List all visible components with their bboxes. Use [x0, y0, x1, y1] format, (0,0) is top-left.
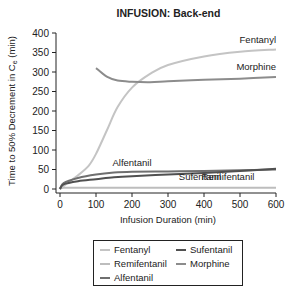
x-tick-label: 300 [160, 199, 177, 210]
y-tick-label: 200 [32, 106, 49, 117]
series-annotation: Remifentanil [202, 171, 255, 182]
y-tick-label: 50 [38, 164, 50, 175]
legend-label: Remifentanil [114, 258, 167, 269]
x-tick-label: 100 [88, 199, 105, 210]
y-tick-label: 0 [43, 184, 49, 195]
x-tick-label: 400 [196, 199, 213, 210]
y-tick-label: 150 [32, 125, 49, 136]
series-annotation: Alfentanil [112, 157, 151, 168]
series-line-remifentanil [60, 188, 276, 189]
legend-swatch [176, 263, 186, 265]
x-axis-label: Infusion Duration (min) [120, 214, 216, 225]
legend-item-remifentanil: Remifentanil [100, 258, 167, 269]
y-tick-label: 300 [32, 67, 49, 78]
x-tick-label: 500 [232, 199, 249, 210]
legend-label: Fentanyl [114, 244, 150, 255]
legend-label: Sufentanil [190, 244, 232, 255]
series-annotation: Morphine [236, 61, 276, 72]
chart-legend: Fentanyl Sufentanil Remifentanil Morphin… [93, 240, 243, 286]
x-tick-label: 600 [268, 199, 285, 210]
legend-swatch [100, 277, 110, 279]
legend-swatch [100, 263, 110, 265]
legend-item-alfentanil: Alfentanil [100, 272, 153, 283]
y-tick-label: 400 [32, 28, 49, 39]
y-tick-label: 350 [32, 47, 49, 58]
legend-swatch [176, 249, 186, 251]
y-tick-label: 250 [32, 86, 49, 97]
legend-item-fentanyl: Fentanyl [100, 244, 150, 255]
x-tick-label: 0 [57, 199, 63, 210]
legend-item-morphine: Morphine [176, 258, 230, 269]
line-chart: 0501001502002503003504000100200300400500… [0, 0, 297, 240]
legend-label: Alfentanil [114, 272, 153, 283]
y-tick-label: 100 [32, 145, 49, 156]
legend-item-sufentanil: Sufentanil [176, 244, 232, 255]
x-tick-label: 200 [124, 199, 141, 210]
legend-label: Morphine [190, 258, 230, 269]
legend-swatch [100, 249, 110, 251]
y-axis-label: Time to 50% Decrement in Ce (min) [6, 36, 18, 186]
series-annotation: Fentanyl [240, 34, 276, 45]
